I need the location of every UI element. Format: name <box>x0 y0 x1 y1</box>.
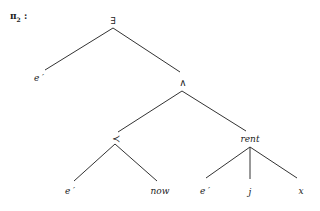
edge-prec-now <box>115 144 157 181</box>
edge-prec-e2 <box>74 144 115 181</box>
node-e-prime: e ′ <box>34 73 44 83</box>
node-precedes: ≺ <box>112 133 120 144</box>
edge-rent-x <box>250 147 297 178</box>
edge-and-prec <box>118 91 182 132</box>
node-rent: rent <box>240 134 259 144</box>
node-now: now <box>151 186 170 196</box>
edge-and-rent <box>182 91 246 131</box>
node-j: j <box>249 187 252 197</box>
edge-root-e1 <box>45 28 113 70</box>
node-e-prime: e ′ <box>200 186 210 196</box>
tree-edges <box>0 0 320 211</box>
node-e-prime: e ′ <box>65 186 75 196</box>
edge-root-and <box>113 28 180 72</box>
node-x: x <box>298 186 303 196</box>
edge-rent-e3 <box>206 147 250 178</box>
node-exists: ∃ <box>110 15 115 26</box>
node-and: ∧ <box>179 77 186 88</box>
